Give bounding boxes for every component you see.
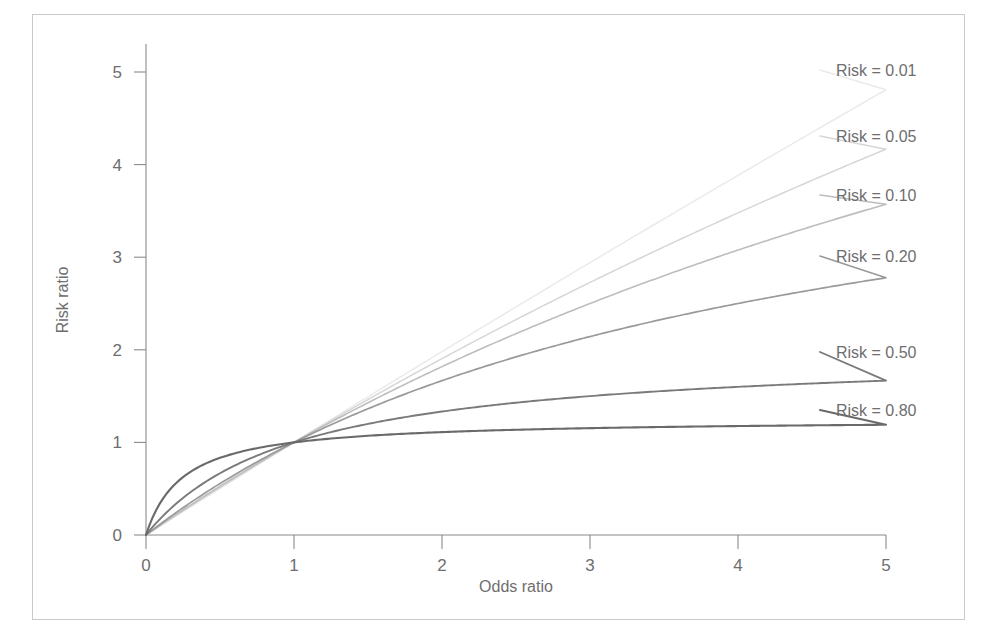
data-curves [146, 70, 886, 535]
y-axis-ticks: 012345 [113, 63, 146, 545]
y-tick-label: 1 [113, 433, 122, 452]
curve-risk-0.5 [146, 352, 886, 535]
legend-label-risk-0.01: Risk = 0.01 [836, 62, 917, 79]
legend-label-risk-0.1: Risk = 0.10 [836, 187, 917, 204]
x-tick-label: 5 [881, 556, 890, 575]
y-tick-label: 5 [113, 63, 122, 82]
chart-canvas: 012345 012345 Risk = 0.01Risk = 0.05Risk… [0, 0, 1007, 643]
y-axis-title: Risk ratio [54, 267, 71, 334]
curve-risk-0.2 [146, 256, 886, 535]
legend-label-risk-0.5: Risk = 0.50 [836, 344, 917, 361]
curve-risk-0.05 [146, 136, 886, 535]
y-tick-label: 3 [113, 248, 122, 267]
curve-risk-0.8 [146, 410, 886, 535]
x-tick-label: 4 [733, 556, 742, 575]
legend-label-risk-0.2: Risk = 0.20 [836, 248, 917, 265]
y-tick-label: 4 [113, 156, 122, 175]
x-tick-label: 2 [437, 556, 446, 575]
legend-label-risk-0.8: Risk = 0.80 [836, 402, 917, 419]
legend: Risk = 0.01Risk = 0.05Risk = 0.10Risk = … [836, 62, 917, 419]
x-axis-ticks: 012345 [141, 535, 890, 575]
x-axis-title: Odds ratio [479, 578, 553, 595]
legend-label-risk-0.05: Risk = 0.05 [836, 128, 917, 145]
x-tick-label: 3 [585, 556, 594, 575]
y-tick-label: 2 [113, 341, 122, 360]
x-tick-label: 0 [141, 556, 150, 575]
x-tick-label: 1 [289, 556, 298, 575]
figure-container: 012345 012345 Risk = 0.01Risk = 0.05Risk… [0, 0, 1007, 643]
y-tick-label: 0 [113, 526, 122, 545]
curve-risk-0.1 [146, 195, 886, 535]
